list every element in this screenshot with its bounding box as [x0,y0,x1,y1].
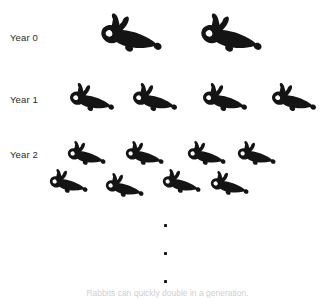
ellipsis-dot [164,280,167,283]
rabbit-silhouette [205,170,250,200]
rabbit-silhouette [196,82,249,117]
rabbit-silhouette [182,140,227,170]
rabbit-silhouette [126,82,179,117]
ellipsis-dot [164,252,167,255]
rabbit-silhouette [100,172,145,202]
ellipsis-dot [164,224,167,227]
rabbit-silhouette [120,140,165,170]
rabbit-silhouette [62,140,107,170]
rabbit-silhouette [157,168,202,198]
figure-caption: Rabbits can quickly double in a generati… [0,289,335,298]
rabbit-silhouette [92,12,164,60]
rabbit-silhouette [265,82,318,117]
row-label-year-1: Year 1 [10,95,38,105]
rabbit-silhouette [44,168,89,198]
rabbit-silhouette [192,12,264,60]
rabbit-silhouette [63,82,116,117]
row-label-year-2: Year 2 [10,150,38,160]
rabbit-silhouette [232,140,277,170]
row-label-year-0: Year 0 [10,33,38,43]
